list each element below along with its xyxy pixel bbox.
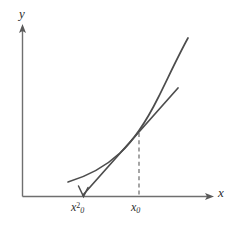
tangent-line-figure: y x x20 x0: [0, 0, 234, 227]
figure-canvas: [0, 0, 234, 227]
y-axis-label: y: [19, 7, 25, 20]
tangent-line: [83, 88, 178, 195]
x-axis-label: x: [218, 186, 224, 199]
tick-label-x0-subscript: 0: [136, 206, 140, 215]
tangent-root-arrowhead: [79, 186, 89, 197]
tick-label-x0-squared: x20: [71, 201, 84, 215]
tick-label-x0: x0: [131, 201, 140, 215]
convex-curve: [68, 38, 188, 182]
tick-label-x0-squared-subscript: 0: [80, 206, 84, 215]
